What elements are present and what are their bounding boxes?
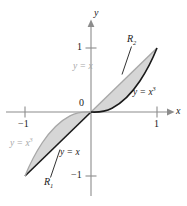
y-axis-label: y	[94, 7, 98, 18]
curve-label-line-upper-text: y = x	[73, 61, 93, 71]
y-axis-arrowhead	[88, 20, 95, 28]
curve-label-line-upper: y = x	[73, 61, 93, 71]
region-label-r1: R1	[44, 176, 53, 189]
x-tick-label-negative-one: −1	[18, 118, 29, 129]
x-axis-arrowhead	[167, 109, 175, 116]
curve-label-cubic-lower-left-text: y = x	[10, 138, 30, 148]
curve-label-line-lower: y = x	[60, 147, 80, 157]
curve-line-y-equals-x-upper	[91, 48, 157, 112]
origin-label: 0	[79, 97, 84, 108]
curve-label-cubic-right: y = x3	[133, 85, 156, 97]
curve-label-line-lower-text: y = x	[60, 147, 80, 157]
curve-line-y-equals-x-lower	[25, 112, 91, 176]
x-tick-label-positive-one: 1	[154, 118, 159, 129]
leader-line-r2	[122, 47, 132, 75]
curve-label-cubic-right-exponent: 3	[153, 85, 156, 92]
leader-line-r1	[51, 150, 61, 178]
y-tick-label-negative-one: −1	[71, 169, 82, 180]
region-label-r2-subscript: 2	[133, 39, 136, 46]
graph-canvas	[0, 0, 187, 206]
curve-label-cubic-lower-left-exponent: 3	[30, 136, 33, 143]
x-axis-label: x	[176, 105, 180, 116]
curve-label-cubic-right-text: y = x	[133, 87, 153, 97]
region-label-r1-subscript: 1	[50, 182, 53, 189]
region-label-r2: R2	[127, 33, 136, 46]
curve-label-cubic-lower-left: y = x3	[10, 136, 33, 148]
figure-container: y x 0 1 −1 −1 1 y = x y = x3 y = x3 y = …	[0, 0, 187, 206]
y-tick-label-positive-one: 1	[77, 41, 82, 52]
